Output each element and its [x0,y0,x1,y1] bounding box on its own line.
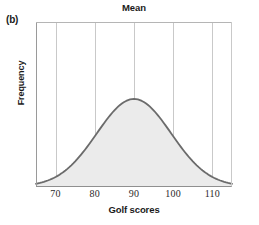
plot-area [0,0,259,225]
distribution-fill [36,99,232,187]
distribution-plot-svg [0,0,259,225]
figure-panel: (b) Mean Frequency Golf scores 708090100… [0,0,259,225]
